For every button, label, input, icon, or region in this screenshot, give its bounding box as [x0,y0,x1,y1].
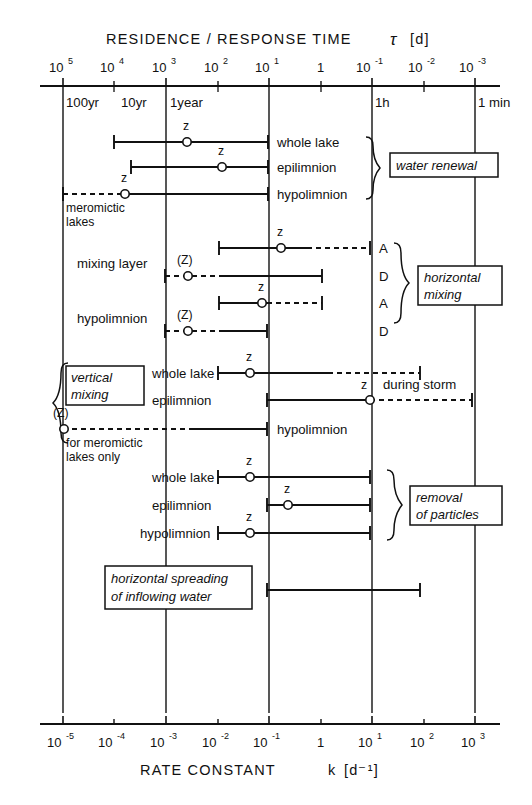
top-tick-exp-6: -1 [375,56,383,66]
time-mark-1h: 1h [375,95,390,110]
bar-wr-whole-lake[interactable]: z [114,119,268,149]
z-marker: z [284,482,290,496]
top-axis-title: RESIDENCE / RESPONSE TIME τ [d] [106,30,430,49]
group-horizontal-mixing: mixing layer hypolimnion z A (Z) D [77,225,502,339]
time-mark-1min: 1 min [478,95,510,110]
label-wr-hypolimnion: hypolimnion [277,187,347,202]
z-marker: (Z) [177,308,193,322]
bottom-tick-mant-2: 10 [150,735,164,750]
label-hm-hypolimnion: hypolimnion [77,311,147,326]
bottom-tick-exp-3: -2 [221,731,229,741]
group-vertical-mixing: vertical mixing whole lake epilimnion z … [53,350,472,464]
top-axis-title-text: RESIDENCE / RESPONSE TIME [106,31,352,47]
box-label-hm-line1: horizontal [424,270,481,285]
z-marker: z [361,378,367,392]
label-rp-whole-lake: whole lake [151,470,214,485]
bottom-tick-mant-4: 10 [253,735,267,750]
tau-symbol: τ [390,30,398,49]
box-label-vm-line1: vertical [71,370,113,385]
label-vm-hypolimnion: hypolimnion [277,422,347,437]
box-label-water-renewal: water renewal [396,158,478,173]
bottom-tick-mant-0: 10 [47,735,61,750]
z-marker: z [246,350,252,364]
z-marker: z [277,225,283,239]
top-tick-exp-4: 1 [274,56,279,66]
box-label-rp-line2: of particles [416,507,479,522]
time-mark-100yr: 100yr [66,95,100,110]
z-marker: z [246,454,252,468]
bottom-tick-mant-7: 10 [410,735,424,750]
code-hm-A1: A [379,241,388,256]
top-tick-labels: 10 5 10 4 10 3 10 2 10 1 1 10 -1 10 -2 1… [49,56,486,75]
group-water-renewal: z whole lake z epilimnion z hypolimnion … [63,119,498,229]
top-tick-mant-7: 10 [408,60,422,75]
bar-hm-hypolimnion-D[interactable]: (Z) [165,308,267,338]
note-meromictic-line2: lakes [66,215,94,229]
bottom-tick-exp-4: -1 [272,731,280,741]
group-removal-of-particles: whole lake epilimnion hypolimnion z z z [140,454,502,541]
z-marker: z [121,171,127,185]
time-mark-1year: 1year [170,95,204,110]
bottom-axis-title-text: RATE CONSTANT [140,762,276,778]
bar-hs-inflowing-water[interactable] [267,583,420,597]
bottom-tick-mant-1: 10 [98,735,112,750]
brace-horizontal-mixing [394,243,409,323]
bar-wr-epilimnion[interactable]: z [131,144,268,174]
bottom-axis-title: RATE CONSTANT k [d⁻¹] [140,762,379,778]
annotation-during-storm: during storm [383,377,456,392]
top-tick-mant-2: 10 [152,60,166,75]
label-wr-epilimnion: epilimnion [277,160,336,175]
z-marker: (Z) [53,406,69,420]
top-tick-exp-8: -3 [478,56,486,66]
figure-canvas: RESIDENCE / RESPONSE TIME τ [d] 10 5 10 … [0,0,532,805]
bottom-axis-unit: [d⁻¹] [344,762,379,778]
z-marker: z [183,119,189,133]
label-vm-epilimnion: epilimnion [152,393,211,408]
box-label-vm-line2: mixing [71,387,109,402]
z-marker: z [246,510,252,524]
label-hm-mixing-layer: mixing layer [77,256,148,271]
bar-rp-epilimnion[interactable]: z [267,482,370,512]
note-vm-line2: lakes only [66,450,121,464]
note-vm-line1: for meromictic [66,436,143,450]
z-marker: z [258,280,264,294]
top-axis [40,78,500,92]
label-rp-hypolimnion: hypolimnion [140,526,210,541]
top-tick-exp-7: -2 [427,56,435,66]
bar-rp-hypolimnion[interactable]: z [218,510,370,540]
brace-water-renewal [366,137,380,199]
label-rp-epilimnion: epilimnion [152,498,211,513]
top-tick-mant-0: 10 [49,60,63,75]
bottom-tick-exp-6: 1 [377,731,382,741]
time-mark-10yr: 10yr [121,95,147,110]
top-tick-mant-3: 10 [204,60,218,75]
k-symbol: k [328,762,336,778]
time-marks: 100yr 10yr 1year 1h 1 min [66,95,510,110]
bottom-tick-labels: 10 -5 10 -4 10 -3 10 -2 10 -1 1 10 1 10 … [47,731,485,750]
bottom-tick-mant-8: 10 [461,735,475,750]
top-tick-mant-4: 10 [255,60,269,75]
bar-vm-whole-lake[interactable]: z [218,350,420,380]
bottom-tick-mant-5: 1 [317,735,324,750]
top-tick-mant-8: 10 [459,60,473,75]
bottom-tick-exp-0: -5 [66,731,74,741]
bottom-tick-exp-8: 3 [480,731,485,741]
code-hm-A2: A [379,296,388,311]
code-hm-D2: D [379,324,389,339]
box-label-hm-line2: mixing [424,287,462,302]
bar-hm-mixinglayer-D[interactable]: (Z) [165,253,322,283]
bar-hm-mixinglayer-A[interactable]: z [219,225,370,255]
bottom-tick-mant-3: 10 [202,735,216,750]
top-tick-exp-1: 4 [119,56,124,66]
z-marker: z [218,144,224,158]
bar-vm-hypolimnion[interactable]: (Z) [53,406,267,436]
bottom-tick-mant-6: 10 [358,735,372,750]
bottom-tick-exp-7: 2 [429,731,434,741]
bar-rp-whole-lake[interactable]: z [218,454,370,484]
bar-hm-hypolimnion-A[interactable]: z [219,280,322,310]
group-horizontal-spreading: horizontal spreading of inflowing water [105,566,420,609]
bottom-tick-exp-1: -4 [117,731,125,741]
code-hm-D1: D [379,269,389,284]
label-wr-whole-lake: whole lake [276,135,339,150]
z-marker: (Z) [177,253,193,267]
